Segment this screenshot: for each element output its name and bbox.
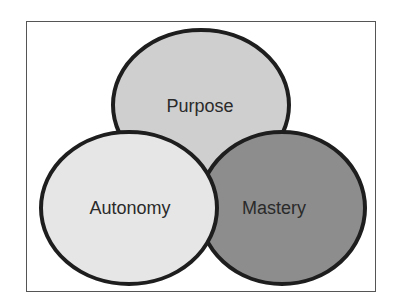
purpose-label: Purpose: [166, 96, 233, 116]
venn-diagram: Purpose Mastery Autonomy: [0, 0, 399, 308]
mastery-label: Mastery: [242, 198, 306, 218]
autonomy-label: Autonomy: [89, 198, 170, 218]
